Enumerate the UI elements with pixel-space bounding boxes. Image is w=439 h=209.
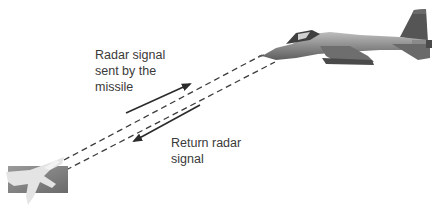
fighter-jet-image xyxy=(258,9,432,65)
return-label-line-2: signal xyxy=(171,151,241,167)
radar-diagram: Radar signal sent by the missile Return … xyxy=(0,0,439,209)
return-signal-label: Return radar signal xyxy=(171,135,241,167)
outgoing-signal-label: Radar signal sent by the missile xyxy=(95,47,165,95)
diagram-canvas xyxy=(0,0,439,209)
return-label-line-1: Return radar xyxy=(171,135,241,151)
missile-seeker-image xyxy=(6,157,68,205)
outgoing-label-line-1: Radar signal xyxy=(95,47,165,63)
outgoing-label-line-2: sent by the xyxy=(95,63,165,79)
outgoing-label-line-3: missile xyxy=(95,79,165,95)
